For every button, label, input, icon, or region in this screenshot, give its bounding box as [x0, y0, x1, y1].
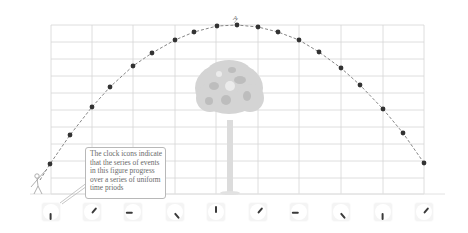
callout-box: The clock icons indicate that the series… — [85, 147, 166, 199]
trajectory-plot — [0, 0, 468, 233]
position-dot — [150, 51, 155, 56]
clock-icon — [249, 203, 267, 221]
position-dot — [192, 30, 197, 35]
position-dot — [48, 162, 53, 167]
position-dot — [276, 30, 281, 35]
clock-hand — [292, 212, 299, 214]
clock-icon — [166, 203, 184, 221]
position-dot — [422, 161, 427, 166]
position-dot — [358, 83, 363, 88]
position-dot — [131, 64, 136, 69]
position-dot — [90, 105, 95, 110]
clock-hand — [126, 212, 133, 214]
peak-label: A — [233, 14, 237, 22]
clock-icon — [374, 203, 392, 221]
position-dot — [68, 133, 73, 138]
position-dot — [256, 25, 261, 30]
clock-hand — [215, 206, 217, 213]
clock-icon — [207, 203, 225, 221]
clock-icon — [290, 203, 308, 221]
clock-icon — [42, 203, 60, 221]
position-dot — [173, 38, 178, 43]
projectile-diagram: A The clock icons indicate that the seri… — [0, 0, 468, 233]
position-dot — [401, 131, 406, 136]
clock-icon — [124, 203, 142, 221]
clock-icon — [332, 203, 350, 221]
position-dot — [215, 24, 220, 29]
position-dot — [297, 38, 302, 43]
callout-line: time priods — [90, 184, 161, 193]
position-dot — [381, 107, 386, 112]
position-dot — [235, 23, 240, 28]
position-dot — [339, 66, 344, 71]
tree-icon — [195, 60, 264, 195]
position-dot — [317, 50, 322, 55]
position-dot — [108, 85, 113, 90]
clock-icon — [415, 203, 433, 221]
clock-icon — [83, 203, 101, 221]
